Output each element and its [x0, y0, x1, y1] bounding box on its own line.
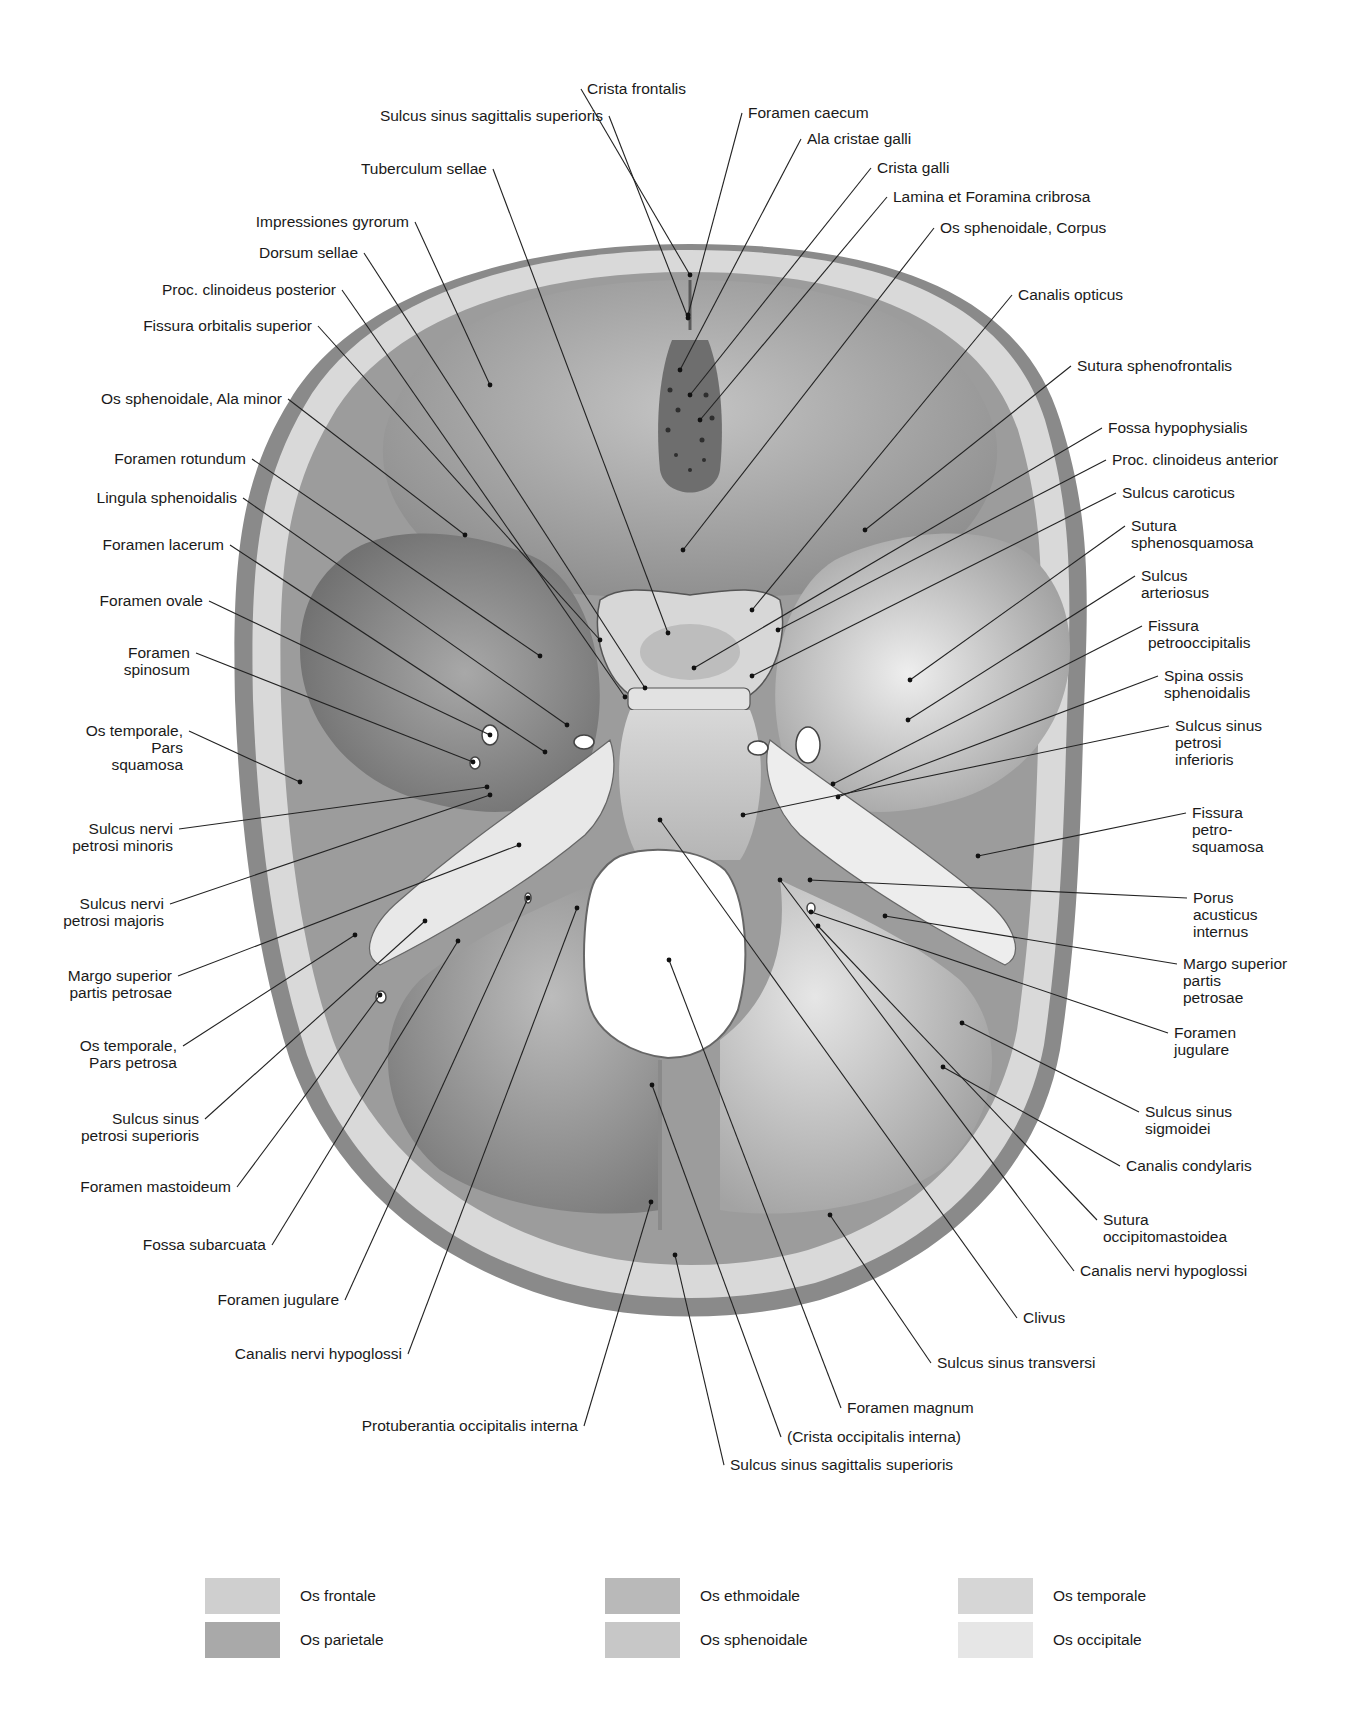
- label-sulcus-sinus-transversi: Sulcus sinus transversi: [937, 1354, 1096, 1371]
- label-sulcus-sinus-sagittalis-superioris-top: Sulcus sinus sagittalis superioris: [380, 107, 603, 124]
- fossa-hypophysialis-shape: [640, 624, 740, 680]
- clivus-shape: [619, 710, 761, 860]
- label-fissura-orbitalis-superior: Fissura orbitalis superior: [143, 317, 312, 334]
- leader-dot-proc-clinoideus-posterior: [623, 695, 628, 700]
- label-crista-frontalis: Crista frontalis: [587, 80, 686, 97]
- label-foramen-rotundum: Foramen rotundum: [114, 450, 246, 467]
- leader-dot-foramen-lacerum: [543, 750, 548, 755]
- label-lingula-sphenoidalis: Lingula sphenoidalis: [97, 489, 237, 506]
- label-canalis-nervi-hypoglossi-right: Canalis nervi hypoglossi: [1080, 1262, 1247, 1279]
- label-canalis-condylaris: Canalis condylaris: [1126, 1157, 1252, 1174]
- leader-dot-foramen-caecum: [686, 313, 691, 318]
- label-canalis-opticus: Canalis opticus: [1018, 286, 1123, 303]
- label-os-temporale-pars-petrosa: Os temporale,Pars petrosa: [80, 1037, 177, 1071]
- leader-dot-sulcus-sinus-petrosi-inferioris: [741, 813, 746, 818]
- leader-dot-foramen-jugulare-right: [809, 910, 814, 915]
- label-foramen-magnum: Foramen magnum: [847, 1399, 974, 1416]
- leader-dot-foramen-jugulare-left: [526, 896, 531, 901]
- leader-dot-lamina-et-foramina-cribrosa: [698, 418, 703, 423]
- leader-dot-sutura-sphenofrontalis: [863, 528, 868, 533]
- leader-dot-lingula-sphenoidalis: [565, 723, 570, 728]
- label-sulcus-caroticus: Sulcus caroticus: [1122, 484, 1235, 501]
- label-fossa-hypophysialis: Fossa hypophysialis: [1108, 419, 1248, 436]
- leader-dot-foramen-rotundum: [538, 654, 543, 659]
- legend-swatch-os-temporale: [958, 1578, 1033, 1614]
- leader-dot-crista-frontalis: [688, 273, 693, 278]
- leader-dot-foramen-ovale: [488, 733, 493, 738]
- label-margo-superior-partis-petrosae-left: Margo superiorpartis petrosae: [68, 967, 172, 1001]
- leader-dot-margo-superior-partis-petrosae-left: [517, 843, 522, 848]
- label-proc-clinoideus-posterior: Proc. clinoideus posterior: [162, 281, 336, 298]
- label-proc-clinoideus-anterior: Proc. clinoideus anterior: [1112, 451, 1278, 468]
- leader-dot-fissura-petrosquamosa: [976, 854, 981, 859]
- leader-dot-foramen-magnum: [667, 958, 672, 963]
- label-sulcus-sinus-petrosi-superioris: Sulcus sinuspetrosi superioris: [81, 1110, 199, 1144]
- leader-dot-fossa-hypophysialis: [692, 666, 697, 671]
- label-sulcus-nervi-petrosi-minoris: Sulcus nervipetrosi minoris: [72, 820, 173, 854]
- label-margo-superior-partis-petrosae-right: Margo superiorpartispetrosae: [1183, 955, 1287, 1006]
- leader-dot-tuberculum-sellae: [666, 631, 671, 636]
- legend-swatch-os-ethmoidale: [605, 1578, 680, 1614]
- leader-dot-sulcus-sinus-petrosi-superioris: [423, 919, 428, 924]
- label-spina-ossis-sphenoidalis: Spina ossissphenoidalis: [1164, 667, 1250, 701]
- bone-legend: Os frontale Os parietale Os ethmoidale O…: [0, 1560, 1369, 1680]
- leader-dot-dorsum-sellae: [643, 686, 648, 691]
- label-fissura-petrosquamosa: Fissurapetro-squamosa: [1192, 804, 1264, 855]
- leader-dot-os-sphenoidale-ala-minor: [463, 533, 468, 538]
- label-os-sphenoidale-corpus: Os sphenoidale, Corpus: [940, 219, 1106, 236]
- label-sulcus-sinus-petrosi-inferioris: Sulcus sinuspetrosiinferioris: [1175, 717, 1262, 768]
- legend-label: Os temporale: [1053, 1587, 1146, 1605]
- leader-dot-impressiones-gyrorum: [488, 383, 493, 388]
- leader-dot-fissura-orbitalis-superior: [598, 638, 603, 643]
- label-fossa-subarcuata: Fossa subarcuata: [143, 1236, 266, 1253]
- label-crista-galli: Crista galli: [877, 159, 949, 176]
- label-clivus: Clivus: [1023, 1309, 1065, 1326]
- label-protuberantia-occipitalis-interna: Protuberantia occipitalis interna: [362, 1417, 578, 1434]
- label-dorsum-sellae: Dorsum sellae: [259, 244, 358, 261]
- label-foramen-ovale: Foramen ovale: [100, 592, 203, 609]
- leader-dot-fossa-subarcuata: [456, 939, 461, 944]
- legend-label: Os frontale: [300, 1587, 376, 1605]
- legend-label: Os parietale: [300, 1631, 384, 1649]
- leader-dot-margo-superior-partis-petrosae-right: [883, 914, 888, 919]
- cranial-base-figure: Sulcus sinus sagittalis superiorisTuberc…: [0, 0, 1369, 1723]
- label-foramen-caecum: Foramen caecum: [748, 104, 869, 121]
- leader-dot-os-temporale-pars-squamosa: [298, 780, 303, 785]
- label-sutura-sphenofrontalis: Sutura sphenofrontalis: [1077, 357, 1232, 374]
- legend-label: Os ethmoidale: [700, 1587, 800, 1605]
- skull-illustration: [0, 0, 1369, 1723]
- label-sulcus-sinus-sigmoidei: Sulcus sinussigmoidei: [1145, 1103, 1232, 1137]
- leader-dot-sulcus-arteriosus: [906, 718, 911, 723]
- legend-swatch-os-sphenoidale: [605, 1622, 680, 1658]
- label-foramen-mastoideum: Foramen mastoideum: [80, 1178, 231, 1195]
- leader-dot-sulcus-nervi-petrosi-minoris: [485, 785, 490, 790]
- label-ala-cristae-galli: Ala cristae galli: [807, 130, 911, 147]
- leader-dot-foramen-spinosum: [471, 760, 476, 765]
- foramen-magnum-shape: [584, 850, 745, 1058]
- legend-label: Os occipitale: [1053, 1631, 1142, 1649]
- leader-dot-sulcus-caroticus: [750, 674, 755, 679]
- legend-label: Os sphenoidale: [700, 1631, 808, 1649]
- leader-dot-fissura-petrooccipitalis: [831, 782, 836, 787]
- label-foramen-jugulare-right: Foramenjugulare: [1174, 1024, 1236, 1058]
- leader-dot-ala-cristae-galli: [678, 368, 683, 373]
- label-porus-acusticus-internus: Porusacusticusinternus: [1193, 889, 1258, 940]
- leader-dot-protuberantia-occipitalis-interna: [649, 1200, 654, 1205]
- label-canalis-nervi-hypoglossi-left: Canalis nervi hypoglossi: [235, 1345, 402, 1362]
- leader-dot-foramen-mastoideum: [378, 993, 383, 998]
- leader-dot-crista-occipitalis-interna: [650, 1083, 655, 1088]
- leader-dot-porus-acusticus-internus: [808, 878, 813, 883]
- label-foramen-lacerum: Foramen lacerum: [103, 536, 224, 553]
- legend-swatch-os-parietale: [205, 1622, 280, 1658]
- label-fissura-petrooccipitalis: Fissurapetrooccipitalis: [1148, 617, 1251, 651]
- leader-dot-os-sphenoidale-corpus: [681, 548, 686, 553]
- label-sutura-occipitomastoidea: Suturaoccipitomastoidea: [1103, 1211, 1227, 1245]
- leader-dot-os-temporale-pars-petrosa: [353, 933, 358, 938]
- label-foramen-jugulare-left: Foramen jugulare: [218, 1291, 339, 1308]
- leader-dot-canalis-nervi-hypoglossi-left: [575, 906, 580, 911]
- leader-dot-proc-clinoideus-anterior: [776, 628, 781, 633]
- label-foramen-spinosum: Foramenspinosum: [124, 644, 190, 678]
- label-tuberculum-sellae: Tuberculum sellae: [361, 160, 487, 177]
- label-sulcus-arteriosus: Sulcusarteriosus: [1141, 567, 1209, 601]
- leader-dot-sulcus-nervi-petrosi-majoris: [488, 793, 493, 798]
